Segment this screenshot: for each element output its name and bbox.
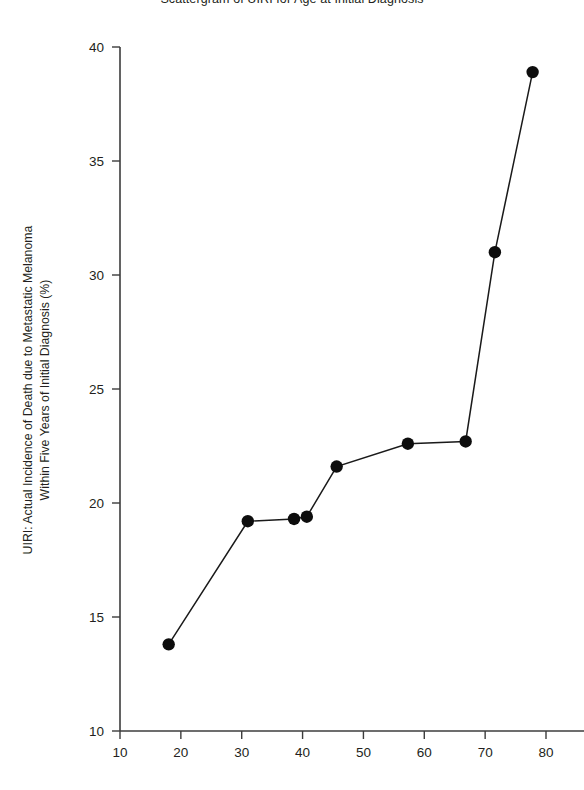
x-axis-tick-label: 60 [417,745,432,760]
data-point [301,510,313,522]
data-point [526,66,538,78]
x-axis-tick-label: 80 [538,745,553,760]
y-axis: 10152025303540 [89,40,120,739]
x-axis-tick-label: 10 [112,745,127,760]
data-point [288,513,300,525]
y-axis-tick-label: 25 [89,382,104,397]
y-axis-tick-label: 20 [89,496,104,511]
data-point [459,435,471,447]
y-axis-tick-label: 40 [89,40,104,55]
x-axis-tick-label: 70 [478,745,493,760]
data-series [162,66,538,651]
x-axis-tick-label: 50 [356,745,371,760]
y-axis-tick-label: 35 [89,154,104,169]
y-axis-tick-label: 10 [89,724,104,739]
data-point [402,438,414,450]
scatter-plot: 10152025303540 1020304050607080 [0,0,584,790]
y-axis-tick-label: 30 [89,268,104,283]
x-axis-tick-label: 20 [173,745,188,760]
data-point [162,638,174,650]
chart-container: Scattergram of UIRI for Age at Initial D… [0,0,584,790]
x-axis-tick-label: 30 [234,745,249,760]
data-point [330,460,342,472]
x-axis-tick-label: 40 [295,745,310,760]
y-axis-tick-label: 15 [89,610,104,625]
x-axis: 1020304050607080 [112,731,584,760]
data-point [242,515,254,527]
series-line [169,72,533,644]
data-point [489,246,501,258]
